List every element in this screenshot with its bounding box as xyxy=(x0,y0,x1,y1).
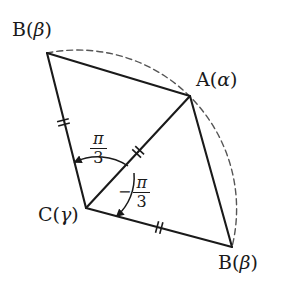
paren-close-c: ) xyxy=(71,203,78,225)
fraction-numerator-negative: π xyxy=(133,175,150,192)
diagram-canvas xyxy=(0,0,283,290)
vertex-label-b-top: B(β) xyxy=(12,18,52,40)
fraction-pi-over-3-positive: π 3 xyxy=(90,131,107,166)
vertex-label-c: C(γ) xyxy=(38,203,79,225)
fraction-denominator-negative: 3 xyxy=(134,193,150,210)
angle-sign-negative: − xyxy=(118,184,133,200)
fraction-numerator-positive: π xyxy=(90,131,107,148)
segment-a-bbottom xyxy=(190,96,232,247)
segment-btop-a xyxy=(47,53,190,96)
segment-c-bbottom xyxy=(86,208,232,247)
angle-label-positive: π 3 xyxy=(88,131,107,166)
vertex-letter-c: C xyxy=(38,203,53,225)
greek-beta-b-top: β xyxy=(33,18,44,40)
fraction-pi-over-3-negative: π 3 xyxy=(133,175,150,210)
paren-close-b-top: ) xyxy=(44,18,51,40)
greek-beta-b-bottom: β xyxy=(239,251,250,273)
vertex-letter-b-top: B xyxy=(12,18,26,40)
segment-btop-c xyxy=(47,53,86,208)
paren-open-c: ( xyxy=(53,203,60,225)
geometry-figure: B(β) A(α) C(γ) B(β) π 3 − π 3 xyxy=(0,0,283,290)
vertex-letter-b-bottom: B xyxy=(218,251,232,273)
angle-label-negative: − π 3 xyxy=(118,175,150,210)
vertex-label-b-bottom: B(β) xyxy=(218,251,258,273)
greek-gamma-c: γ xyxy=(60,203,71,225)
fraction-denominator-positive: 3 xyxy=(90,149,106,166)
vertex-letter-a: A xyxy=(196,68,210,90)
paren-close-b-bottom: ) xyxy=(250,251,257,273)
greek-alpha-a: α xyxy=(217,68,230,90)
paren-close-a: ) xyxy=(230,68,237,90)
vertex-label-a: A(α) xyxy=(196,68,237,90)
